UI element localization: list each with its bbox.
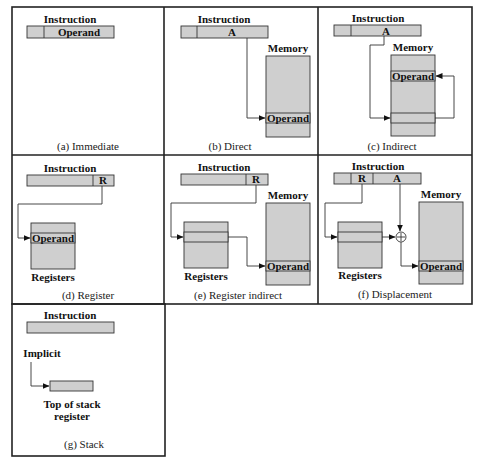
address-field: A: [393, 172, 401, 184]
adder-icon: [396, 232, 406, 242]
memory-arrow: [401, 242, 418, 266]
registers-block: [31, 223, 75, 269]
indirect-arrow: [435, 76, 454, 118]
instruction-label: Instruction: [44, 162, 97, 174]
pointer-register: [184, 232, 228, 242]
caption-indirect: (c) Indirect: [367, 140, 416, 153]
caption-direct: (b) Direct: [208, 140, 251, 153]
address-field: A: [228, 26, 236, 38]
register-field: R: [99, 174, 108, 186]
registers-block: [184, 222, 228, 268]
panel-register: Instruction R Operand Registers (d) Regi…: [18, 162, 114, 302]
caption-displacement: (f) Displacement: [358, 288, 432, 301]
instruction-label: Instruction: [44, 13, 97, 25]
instruction-label: Instruction: [198, 13, 251, 25]
svg-text:Operand: Operand: [267, 260, 309, 272]
svg-text:Operand: Operand: [32, 232, 74, 244]
memory-label: Memory: [393, 41, 434, 53]
address-arrow: [247, 38, 265, 118]
panel-indirect: Instruction A Memory Operand (c) Indirec…: [334, 12, 454, 153]
address-field: A: [382, 25, 390, 37]
svg-text:Operand: Operand: [267, 112, 309, 124]
memory-arrow: [228, 237, 265, 266]
caption-register-indirect: (e) Register indirect: [194, 289, 282, 302]
top-of-stack-register: [50, 381, 93, 391]
implicit-arrow: [31, 362, 49, 386]
registers-label: Registers: [31, 271, 75, 283]
svg-text:Operand: Operand: [420, 260, 462, 272]
instruction-label: Instruction: [352, 12, 405, 24]
pointer-cell: [391, 113, 435, 123]
operand-field: Operand: [58, 26, 100, 38]
register-field: R: [252, 173, 261, 185]
addressing-modes-diagram: Instruction Operand (a) Immediate Instru…: [0, 0, 482, 462]
caption-register: (d) Register: [62, 289, 115, 302]
svg-text:Operand: Operand: [392, 70, 434, 82]
instruction-label: Instruction: [352, 160, 405, 172]
panel-direct: Instruction A Memory Operand (b) Direct: [181, 13, 310, 153]
tos-label-line2: register: [54, 410, 90, 422]
panel-register-indirect: Instruction R Memory Operand Registers (…: [171, 161, 310, 302]
instruction-box: [181, 26, 268, 38]
memory-block: [266, 203, 310, 285]
memory-label: Memory: [268, 42, 309, 54]
address-arrow: [370, 36, 390, 118]
instruction-label: Instruction: [44, 309, 97, 321]
memory-block: [266, 56, 310, 137]
memory-label: Memory: [421, 188, 462, 200]
registers-label: Registers: [184, 270, 228, 282]
instruction-box: [334, 173, 421, 184]
register-field: R: [358, 172, 367, 184]
instruction-box: [27, 322, 114, 333]
caption-immediate: (a) Immediate: [57, 140, 119, 153]
caption-stack: (g) Stack: [64, 438, 105, 451]
memory-label: Memory: [268, 189, 309, 201]
panel-displacement: Instruction R A Memory Operand Registers…: [325, 160, 463, 301]
panel-stack: Instruction Implicit Top of stack regist…: [23, 309, 114, 451]
registers-block: [338, 222, 382, 268]
memory-block: [391, 55, 435, 136]
implicit-label: Implicit: [23, 347, 61, 359]
registers-label: Registers: [338, 269, 382, 281]
panel-immediate: Instruction Operand (a) Immediate: [27, 13, 119, 153]
instruction-label: Instruction: [198, 161, 251, 173]
instruction-box: [334, 25, 421, 36]
base-register: [338, 232, 382, 242]
tos-label-line1: Top of stack: [43, 398, 101, 410]
